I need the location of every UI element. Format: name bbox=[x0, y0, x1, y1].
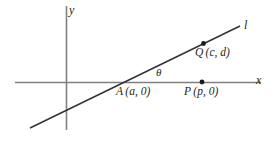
point-p-label: P (p, 0) bbox=[184, 86, 218, 98]
y-axis-label: y bbox=[69, 4, 74, 16]
theta-angle-label: θ bbox=[156, 67, 161, 78]
x-axis-label: x bbox=[256, 74, 261, 86]
figure-canvas: y x l θ A (a, 0) P (p, 0) Q (c, d) bbox=[0, 0, 278, 143]
point-a-label: A (a, 0) bbox=[116, 86, 150, 98]
point-q-label: Q (c, d) bbox=[195, 47, 230, 59]
point-p-dot bbox=[200, 80, 205, 85]
line-l-label: l bbox=[244, 19, 247, 31]
diagram-svg bbox=[0, 0, 278, 143]
line-l bbox=[30, 26, 240, 128]
